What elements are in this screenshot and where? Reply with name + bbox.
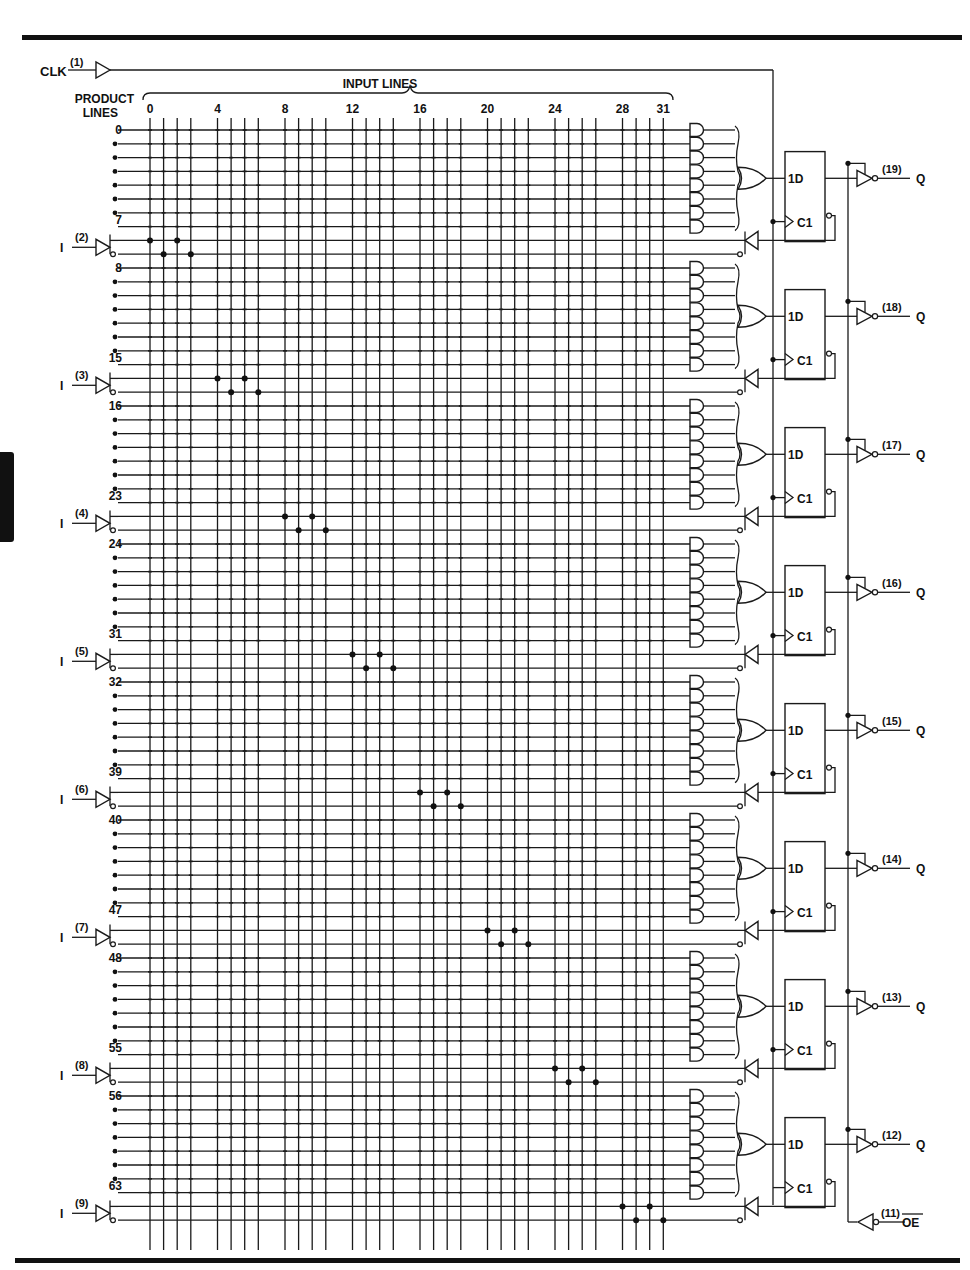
output-label: Q [916,1000,925,1014]
bottom-rule [15,1258,960,1263]
connection-dot [215,375,221,381]
clk-pin-number: (1) [70,56,84,68]
and-gate-icon [690,703,704,716]
product-lines-heading-1: PRODUCT [75,92,135,106]
inverter-bubble-icon [111,390,116,395]
qbar-bubble-icon [827,1041,832,1046]
product-line-first-label: 24 [109,537,123,551]
feedback-buffer-icon [745,507,758,525]
ellipsis-dot [113,983,118,988]
input-pin-number: (5) [75,645,89,657]
ellipsis-dot [113,1107,118,1112]
product-line-first-label: 40 [109,813,123,827]
product-line-first-label: 16 [109,399,123,413]
feedback-inverter-bubble-icon [738,390,743,395]
or-input-brace [735,954,740,1059]
and-gate-icon [690,1048,704,1061]
input-line-tick-label: 28 [616,102,630,116]
or-gate-icon [738,719,766,741]
ellipsis-dot [113,749,118,754]
input-buffer-icon [96,377,110,393]
ellipsis-dot [113,293,118,298]
product-line-last-label: 55 [109,1041,123,1055]
ellipsis-dot [113,1135,118,1140]
and-gate-icon [690,1021,704,1034]
product-line-last-label: 31 [109,627,123,641]
clk-junction-dot [770,357,775,362]
and-gate-icon [690,400,704,413]
and-gate-icon [690,841,704,854]
feedback-buffer-icon [745,231,758,249]
input-line-tick-label: 16 [413,102,427,116]
connection-dot [363,665,369,671]
and-gate-icon [690,1090,704,1103]
inverter-bubble-icon [111,1080,116,1085]
ellipsis-dot [113,1011,118,1016]
ellipsis-dot [113,555,118,560]
ellipsis-dot [113,307,118,312]
ellipsis-dot [113,417,118,422]
feedback-buffer-icon [745,1197,758,1215]
flipflop-d-label: 1D [788,172,804,186]
and-gate-icon [690,427,704,440]
logic-diagram: CLK(1)INPUT LINESPRODUCTLINES04812162024… [0,0,970,1270]
clk-junction-dot [770,219,775,224]
input-pin-number: (6) [75,783,89,795]
oe-inverter-bubble-icon [873,1219,878,1224]
clk-junction-dot [770,495,775,500]
and-gate-icon [690,413,704,426]
and-gate-icon [690,634,704,647]
feedback-buffer-icon [745,645,758,663]
input-pin-number: (7) [75,921,89,933]
top-rule [22,35,962,40]
input-label: I [60,655,63,669]
and-gate-icon [690,455,704,468]
connection-dot [512,927,518,933]
connection-dot [350,651,356,657]
and-gate-icon [690,220,704,233]
ellipsis-dot [113,969,118,974]
feedback-buffer-icon [745,783,758,801]
input-buffer-icon [96,653,110,669]
and-gate-icon [690,745,704,758]
connection-dot [242,375,248,381]
ellipsis-dot [113,693,118,698]
output-pin-number: (13) [882,991,902,1003]
and-gate-icon [690,538,704,551]
oe-junction-dot [845,575,850,580]
and-gate-icon [690,827,704,840]
flipflop-c-label: C1 [797,216,813,230]
output-label: Q [916,586,925,600]
product-line-first-label: 8 [115,261,122,275]
or-gate-icon [738,167,766,189]
feedback-inverter-bubble-icon [738,804,743,809]
ellipsis-dot [113,597,118,602]
flipflop-c-label: C1 [797,492,813,506]
and-gate-icon [690,469,704,482]
product-lines-heading-2: LINES [83,106,118,120]
or-input-brace [735,1092,740,1197]
input-buffer-icon [96,929,110,945]
feedback-buffer-icon [745,1059,758,1077]
inverter-bubble-icon [111,1218,116,1223]
input-buffer-icon [96,1067,110,1083]
output-label: Q [916,172,925,186]
and-gate-icon [690,731,704,744]
ellipsis-dot [113,887,118,892]
and-gate-icon [690,1186,704,1199]
feedback-inverter-bubble-icon [738,528,743,533]
connection-dot [309,513,315,519]
oe-junction-dot [845,851,850,856]
and-gate-icon [690,137,704,150]
flipflop-c-label: C1 [797,1044,813,1058]
input-buffer-icon [96,791,110,807]
ellipsis-dot [113,997,118,1002]
inverter-bubble-icon [111,804,116,809]
oe-junction-dot [845,713,850,718]
connection-dot [147,237,153,243]
or-gate-icon [738,443,766,465]
ellipsis-dot [113,1121,118,1126]
and-gate-icon [690,965,704,978]
product-line-last-label: 63 [109,1179,123,1193]
and-gate-icon [690,689,704,702]
